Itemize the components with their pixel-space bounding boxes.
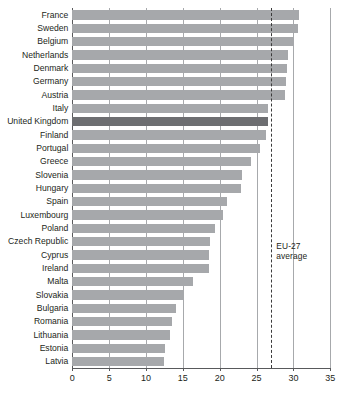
category-label: Lithuania xyxy=(33,329,68,341)
x-tick-label: 35 xyxy=(325,372,335,384)
x-tick-label: 25 xyxy=(252,372,262,384)
bar xyxy=(72,90,285,99)
category-label: Belgium xyxy=(37,35,68,47)
chart-row: Luxembourg xyxy=(72,208,330,222)
category-label: Germany xyxy=(33,75,68,87)
x-tick-mark-5 xyxy=(109,368,110,371)
category-label: Denmark xyxy=(33,62,68,74)
bar xyxy=(72,10,298,19)
bar xyxy=(72,237,210,246)
category-label: Austria xyxy=(42,89,69,101)
x-tick-mark-35 xyxy=(330,368,331,371)
chart-row: Poland xyxy=(72,221,330,235)
x-tick-mark-15 xyxy=(183,368,184,371)
category-label: Slovakia xyxy=(36,289,68,301)
category-label: Romania xyxy=(34,315,68,327)
category-label: Bulgaria xyxy=(37,302,69,314)
x-tick-mark-20 xyxy=(220,368,221,371)
chart-row: Lithuania xyxy=(72,328,330,342)
chart-row: Germany xyxy=(72,75,330,89)
chart-row: France xyxy=(72,8,330,22)
bar xyxy=(72,330,169,339)
x-axis-line xyxy=(72,368,330,369)
x-tick-mark-25 xyxy=(257,368,258,371)
category-label: Spain xyxy=(46,195,68,207)
bar xyxy=(72,277,193,286)
chart-row: Finland xyxy=(72,128,330,142)
bar xyxy=(72,357,163,366)
x-tick-label: 0 xyxy=(70,372,75,384)
bar xyxy=(72,144,259,153)
x-tick-label: 10 xyxy=(141,372,151,384)
chart-row: Slovenia xyxy=(72,168,330,182)
category-label: Netherlands xyxy=(22,49,68,61)
chart-row: Bulgaria xyxy=(72,301,330,315)
chart-row: Portugal xyxy=(72,141,330,155)
category-label: Luxembourg xyxy=(21,209,69,221)
chart-row: Greece xyxy=(72,155,330,169)
category-label: Czech Republic xyxy=(8,235,68,247)
chart-row: United Kingdom xyxy=(72,115,330,129)
category-label: Greece xyxy=(40,155,68,167)
bar xyxy=(72,64,287,73)
bar xyxy=(72,317,172,326)
bar xyxy=(72,170,242,179)
bar xyxy=(72,290,184,299)
x-tick-mark-10 xyxy=(146,368,147,371)
gridline-35 xyxy=(330,8,331,368)
chart-row: Belgium xyxy=(72,35,330,49)
category-label: Sweden xyxy=(37,22,68,34)
bar xyxy=(72,264,208,273)
bar xyxy=(72,210,222,219)
category-label: Finland xyxy=(40,129,68,141)
bar xyxy=(72,77,286,86)
chart-row: Netherlands xyxy=(72,48,330,62)
category-label: United Kingdom xyxy=(7,115,68,127)
category-label: Estonia xyxy=(40,342,69,354)
bar xyxy=(72,184,241,193)
bar xyxy=(72,117,267,126)
bar xyxy=(72,157,251,166)
category-label: Ireland xyxy=(42,262,68,274)
x-tick-mark-30 xyxy=(293,368,294,371)
category-label: Malta xyxy=(47,275,68,287)
category-label: Latvia xyxy=(45,355,68,367)
chart-row: Denmark xyxy=(72,61,330,75)
chart-row: Italy xyxy=(72,101,330,115)
chart-row: Romania xyxy=(72,315,330,329)
category-label: Slovenia xyxy=(35,169,68,181)
category-label: Hungary xyxy=(36,182,68,194)
bar xyxy=(72,250,208,259)
chart-row: Sweden xyxy=(72,21,330,35)
chart-row: Ireland xyxy=(72,261,330,275)
bar xyxy=(72,197,227,206)
bar xyxy=(72,37,294,46)
bar xyxy=(72,224,215,233)
chart-row: Malta xyxy=(72,275,330,289)
category-label: Poland xyxy=(42,222,69,234)
chart-row: Slovakia xyxy=(72,288,330,302)
plot-area: FranceSwedenBelgiumNetherlandsDenmarkGer… xyxy=(72,8,330,368)
chart-row: Estonia xyxy=(72,341,330,355)
eu-average-label: EU-27 average xyxy=(276,242,307,261)
bar xyxy=(72,344,165,353)
x-tick-label: 30 xyxy=(288,372,298,384)
category-label: France xyxy=(42,9,69,21)
bar-chart: FranceSwedenBelgiumNetherlandsDenmarkGer… xyxy=(0,0,340,399)
bar xyxy=(72,130,266,139)
category-label: Portugal xyxy=(36,142,68,154)
x-tick-label: 20 xyxy=(215,372,225,384)
eu-average-line xyxy=(271,8,272,368)
x-tick-label: 15 xyxy=(178,372,188,384)
x-tick-label: 5 xyxy=(107,372,112,384)
bar xyxy=(72,104,268,113)
chart-row: Spain xyxy=(72,195,330,209)
x-tick-mark-0 xyxy=(72,368,73,371)
chart-row: Austria xyxy=(72,88,330,102)
chart-row: Latvia xyxy=(72,355,330,369)
category-label: Cyprus xyxy=(41,249,68,261)
category-label: Italy xyxy=(53,102,69,114)
bar xyxy=(72,24,298,33)
chart-row: Hungary xyxy=(72,181,330,195)
bar xyxy=(72,50,288,59)
